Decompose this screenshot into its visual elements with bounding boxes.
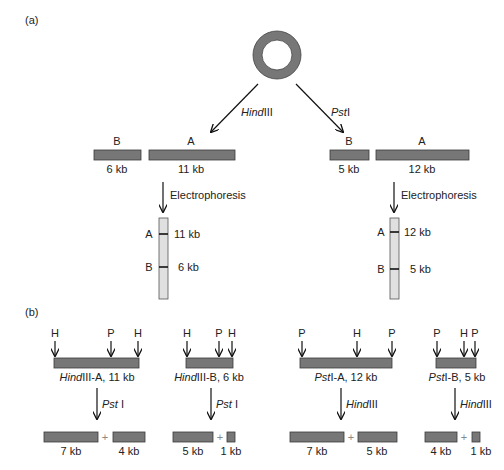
band-name: B	[377, 263, 384, 275]
band-size: 6 kb	[178, 261, 199, 273]
band-size: 12 kb	[404, 226, 431, 238]
site-label: H	[460, 327, 468, 339]
site-label: H	[353, 327, 361, 339]
fragment-label: HindIII-B, 6 kb	[174, 371, 244, 383]
product-bar	[472, 432, 480, 442]
plus-sign: +	[217, 431, 223, 443]
fragment-bar	[300, 358, 392, 368]
site-label: P	[433, 327, 440, 339]
panel-b-label: (b)	[25, 306, 38, 318]
step-label: Electrophoresis	[401, 189, 477, 201]
gel-lane	[390, 218, 399, 299]
site-label: H	[51, 327, 59, 339]
subdigest-psti-b: P H P PstI-B, 5 kb HindIII + 4 kb 1 kb	[425, 327, 492, 457]
product-bar	[173, 432, 213, 442]
band-size: 5 kb	[410, 263, 431, 275]
product-bar	[227, 432, 235, 442]
site-label: P	[298, 327, 305, 339]
site-label: P	[107, 327, 114, 339]
product-size: 1 kb	[221, 445, 242, 457]
psti-fragment-b-bar	[330, 150, 369, 160]
site-label: P	[388, 327, 395, 339]
psti-fragment-a-bar	[376, 150, 469, 160]
fragment-label: HindIII-A, 11 kb	[60, 371, 135, 383]
enzyme-label: Pst I	[216, 398, 238, 410]
fragment-bar	[186, 358, 233, 368]
fragment-name: A	[418, 135, 426, 147]
fragment-bar	[436, 358, 476, 368]
fragment-label: PstI-A, 12 kb	[315, 371, 378, 383]
fragment-name: A	[187, 135, 195, 147]
band-name: A	[377, 226, 385, 238]
product-size: 5 kb	[367, 445, 388, 457]
product-size: 5 kb	[183, 445, 204, 457]
subdigest-hindiii-a: H P H HindIII-A, 11 kb Pst I + 7 kb 4 kb	[44, 327, 145, 457]
hindiii-fragment-a-bar	[149, 150, 235, 160]
fragment-name: B	[345, 135, 352, 147]
plus-sign: +	[102, 431, 108, 443]
product-bar	[290, 432, 344, 442]
fragment-size: 11 kb	[178, 163, 204, 175]
band-name: B	[145, 261, 152, 273]
hindiii-enzyme-label: HindIII	[241, 106, 273, 118]
plus-sign: +	[461, 431, 467, 443]
product-bar	[358, 432, 397, 442]
product-size: 4 kb	[431, 445, 452, 457]
fragment-bar	[54, 358, 139, 368]
product-bar	[425, 432, 457, 442]
product-size: 4 kb	[119, 445, 140, 457]
subdigest-hindiii-b: H P H HindIII-B, 6 kb Pst I + 5 kb 1 kb	[173, 327, 244, 457]
product-size: 1 kb	[471, 445, 492, 457]
site-label: H	[183, 327, 191, 339]
psti-enzyme-label: PstI	[331, 106, 350, 118]
site-label: P	[471, 327, 478, 339]
restriction-mapping-diagram: (a) HindIII PstI B 6 kb A 11 kb Electrop…	[0, 0, 504, 470]
fragment-size: 5 kb	[339, 163, 360, 175]
site-label: P	[215, 327, 222, 339]
hindiii-fragment-b-bar	[94, 150, 141, 160]
fragment-name: B	[113, 135, 120, 147]
band-size: 11 kb	[174, 228, 200, 240]
fragment-label: PstI-B, 5 kb	[429, 371, 486, 383]
site-label: H	[228, 327, 236, 339]
product-bar	[44, 432, 98, 442]
subdigest-psti-a: P H P PstI-A, 12 kb HindIII + 7 kb 5 kb	[290, 327, 397, 457]
product-size: 7 kb	[307, 445, 328, 457]
enzyme-label: HindIII	[346, 398, 378, 410]
product-bar	[113, 432, 145, 442]
enzyme-label: Pst I	[102, 398, 124, 410]
plus-sign: +	[348, 431, 354, 443]
band-name: A	[145, 228, 153, 240]
gel-lane	[159, 218, 168, 299]
product-size: 7 kb	[61, 445, 82, 457]
step-label: Electrophoresis	[170, 189, 246, 201]
fragment-size: 6 kb	[107, 163, 128, 175]
panel-a-label: (a)	[25, 14, 38, 26]
plasmid-icon	[253, 31, 301, 79]
fragment-size: 12 kb	[409, 163, 436, 175]
enzyme-label: HindIII	[460, 398, 492, 410]
site-label: H	[134, 327, 142, 339]
